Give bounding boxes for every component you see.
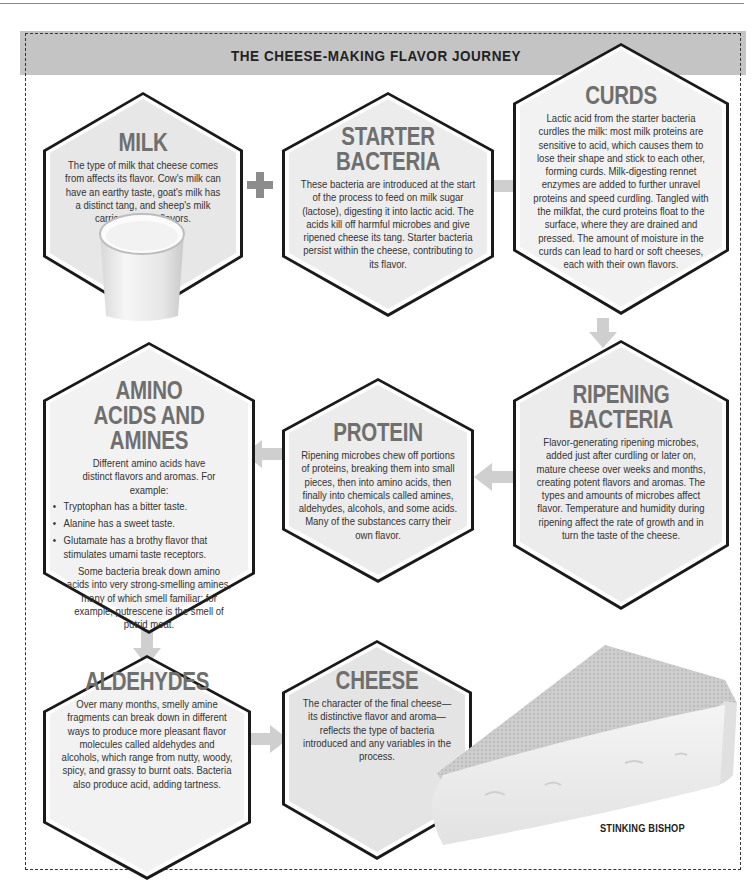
stage-description: Lactic acid from the starter bacteria cu… — [531, 112, 711, 272]
stage-title: ALDEHYDES — [68, 669, 225, 694]
bullet-item: Glutamate has a brothy flavor that stimu… — [51, 534, 247, 561]
stage-amino-acids-and-amines: AMINO ACIDS AND AMINES Different amino a… — [43, 342, 255, 634]
arrow-left-icon — [474, 463, 518, 491]
cheese-wedge-image — [425, 645, 745, 845]
stage-title-line2: ACIDS AND AMINES — [69, 403, 230, 453]
stage-outro: Some bacteria break down amino acids int… — [61, 565, 237, 631]
stage-title-line1: RIPENING — [539, 382, 703, 407]
stage-title: PROTEIN — [304, 420, 452, 445]
stage-description: Ripening microbes chew off portions of p… — [297, 449, 459, 542]
stage-description: Flavor-generating ripening microbes, add… — [531, 436, 711, 542]
amino-bullet-list: Tryptophan has a bitter taste. Alanine h… — [51, 500, 247, 561]
top-rule — [0, 3, 744, 4]
stage-title-line1: STARTER — [306, 124, 470, 149]
stage-starter-bacteria: STARTER BACTERIA These bacteria are intr… — [282, 92, 494, 317]
stage-ripening-bacteria: RIPENING BACTERIA Flavor-generating ripe… — [513, 340, 729, 610]
stage-protein: PROTEIN Ripening microbes chew off porti… — [282, 378, 474, 583]
stage-title-line2: BACTERIA — [539, 407, 703, 432]
stage-intro: Different amino acids have distinct flav… — [61, 457, 237, 497]
stage-description: These bacteria are introduced at the sta… — [298, 178, 478, 271]
cheese-caption: STINKING BISHOP — [600, 822, 685, 834]
stage-aldehydes: ALDEHYDES Over many months, smelly amine… — [43, 655, 251, 880]
stage-description: Over many months, smelly amine fragments… — [61, 698, 234, 791]
stage-curds: CURDS Lactic acid from the starter bacte… — [513, 43, 729, 315]
stage-title: MILK — [69, 130, 217, 155]
stage-title-line2: BACTERIA — [306, 149, 470, 174]
bullet-item: Tryptophan has a bitter taste. — [51, 500, 247, 513]
bullet-item: Alanine has a sweet taste. — [51, 517, 247, 530]
stage-title-line1: AMINO — [69, 378, 230, 403]
plus-icon — [247, 172, 273, 198]
milk-glass-image — [97, 212, 187, 324]
stage-title: CURDS — [539, 83, 703, 108]
